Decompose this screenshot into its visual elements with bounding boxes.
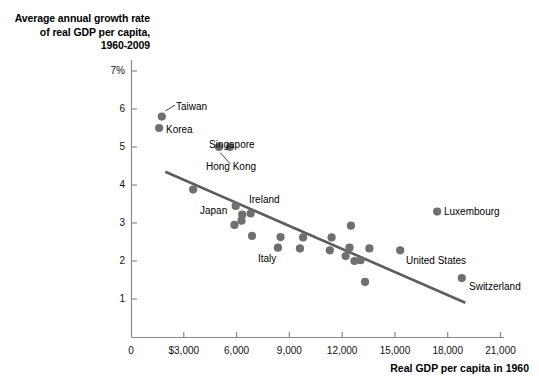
data-point[interactable] (276, 233, 284, 241)
data-point[interactable] (326, 246, 334, 254)
point-label-italy: Italy (258, 253, 276, 264)
y-tick-label: 1 (91, 293, 125, 304)
data-point[interactable] (296, 244, 304, 252)
point-label-luxembourg: Luxembourg (444, 206, 500, 217)
x-tick-label: 18,000 (418, 345, 478, 356)
data-point[interactable] (247, 209, 255, 217)
data-point[interactable] (248, 232, 256, 240)
point-label-korea: Korea (166, 124, 193, 135)
data-point[interactable] (237, 217, 245, 225)
y-tick-label: 5 (91, 141, 125, 152)
x-tick-label: $3,000 (154, 345, 214, 356)
data-point[interactable] (327, 233, 335, 241)
x-tick-label: 12,000 (312, 345, 372, 356)
data-point[interactable] (299, 233, 307, 241)
y-tick-label: 4 (91, 179, 125, 190)
data-point[interactable] (158, 113, 166, 121)
data-point[interactable] (396, 246, 404, 254)
data-point[interactable] (232, 202, 240, 210)
point-label-taiwan: Taiwan (176, 101, 207, 112)
data-point[interactable] (361, 278, 369, 286)
x-tick-label: 21,000 (471, 345, 531, 356)
taiwan-leader-line (165, 105, 175, 111)
data-point[interactable] (345, 244, 353, 252)
y-tick-label: 3 (91, 217, 125, 228)
trend-line (165, 172, 465, 303)
point-label-singapore: Singapore (209, 139, 255, 150)
y-tick-label: 2 (91, 255, 125, 266)
point-label-japan: Japan (200, 205, 227, 216)
scatter-chart: Average annual growth rate of real GDP p… (0, 0, 539, 387)
point-label-switzerland: Switzerland (469, 281, 521, 292)
point-label-ireland: Ireland (249, 194, 280, 205)
point-label-united-states: United States (406, 255, 466, 266)
x-tick-label: 6,000 (207, 345, 267, 356)
data-point[interactable] (365, 244, 373, 252)
point-label-hong-kong: Hong Kong (206, 161, 256, 172)
data-point[interactable] (357, 256, 365, 264)
y-tick-label: 7% (91, 65, 125, 76)
data-point[interactable] (230, 221, 238, 229)
data-point[interactable] (155, 124, 163, 132)
x-tick-label: 15,000 (365, 345, 425, 356)
data-point[interactable] (189, 185, 197, 193)
y-tick-label: 6 (91, 103, 125, 114)
x-tick-label: 9,000 (259, 345, 319, 356)
data-point[interactable] (342, 252, 350, 260)
data-point[interactable] (458, 274, 466, 282)
data-point[interactable] (347, 222, 355, 230)
data-point[interactable] (433, 208, 441, 216)
data-point[interactable] (274, 244, 282, 252)
x-tick-label: 0 (101, 345, 161, 356)
